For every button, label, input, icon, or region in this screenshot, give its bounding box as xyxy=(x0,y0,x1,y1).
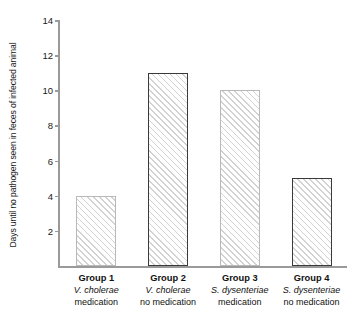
y-axis-title: Days until no pathogen seen in feces of … xyxy=(4,5,22,285)
category-label-group-2: Group 2V. choleraeno medication xyxy=(132,272,204,309)
x-axis-category-labels: Group 1V. choleraemedicationGroup 2V. ch… xyxy=(58,272,354,320)
y-tick-label: 6 xyxy=(48,155,53,166)
category-treatment: no medication xyxy=(132,296,204,308)
y-tick-label: 8 xyxy=(48,120,53,131)
category-label-group-3: Group 3S. dysenteriaemedication xyxy=(204,272,276,309)
y-tick-label: 12 xyxy=(42,50,53,61)
category-group-name: Group 3 xyxy=(204,272,276,284)
y-tick-mark xyxy=(55,125,59,127)
bar-group-4 xyxy=(292,178,332,266)
bar-group-3 xyxy=(220,90,260,266)
category-species-name: S. dysenteriae xyxy=(276,284,348,296)
category-group-name: Group 4 xyxy=(276,272,348,284)
y-tick-mark xyxy=(55,196,59,198)
category-species-name: S. dysenteriae xyxy=(204,284,276,296)
bars-layer xyxy=(60,20,347,266)
category-species-name: V. cholerae xyxy=(132,284,204,296)
y-tick-mark xyxy=(55,20,59,22)
category-label-group-1: Group 1V. choleraemedication xyxy=(60,272,132,309)
plot-area: 1412108642 xyxy=(58,16,354,270)
y-tick-label: 4 xyxy=(48,190,53,201)
category-treatment: no medication xyxy=(276,296,348,308)
y-tick-label: 14 xyxy=(42,15,53,26)
bar-chart: Days until no pathogen seen in feces of … xyxy=(0,0,364,323)
category-treatment: medication xyxy=(60,296,132,308)
category-species-name: V. cholerae xyxy=(60,284,132,296)
y-tick-mark xyxy=(55,161,59,163)
category-group-name: Group 1 xyxy=(60,272,132,284)
y-tick-mark xyxy=(55,231,59,233)
y-tick-mark xyxy=(55,90,59,92)
y-tick-label: 10 xyxy=(42,85,53,96)
category-label-group-4: Group 4S. dysenteriaeno medication xyxy=(276,272,348,309)
category-group-name: Group 2 xyxy=(132,272,204,284)
y-tick-label: 2 xyxy=(48,225,53,236)
bar-group-2 xyxy=(148,73,188,266)
category-treatment: medication xyxy=(204,296,276,308)
y-tick-mark xyxy=(55,55,59,57)
bar-group-1 xyxy=(76,196,116,266)
